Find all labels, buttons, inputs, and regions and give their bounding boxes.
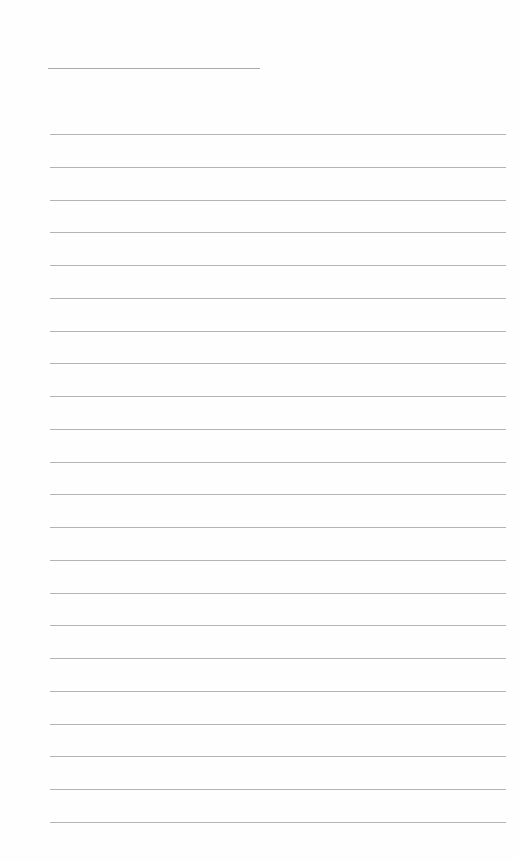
ruled-line (50, 494, 506, 495)
ruled-line (50, 429, 506, 430)
ruled-line (50, 363, 506, 364)
title-line (48, 68, 260, 69)
ruled-line (50, 232, 506, 233)
ruled-line (50, 200, 506, 201)
ruled-line (50, 789, 506, 790)
ruled-line (50, 265, 506, 266)
ruled-line (50, 756, 506, 757)
ruled-line (50, 167, 506, 168)
ruled-line (50, 527, 506, 528)
ruled-line (50, 396, 506, 397)
ruled-line (50, 560, 506, 561)
ruled-line (50, 462, 506, 463)
ruled-line (50, 691, 506, 692)
ruled-line (50, 331, 506, 332)
ruled-line (50, 593, 506, 594)
ruled-line (50, 134, 506, 135)
ruled-line (50, 658, 506, 659)
ruled-line (50, 822, 506, 823)
lined-paper-page (0, 0, 519, 862)
ruled-line (50, 298, 506, 299)
ruled-line (50, 724, 506, 725)
ruled-line (50, 625, 506, 626)
